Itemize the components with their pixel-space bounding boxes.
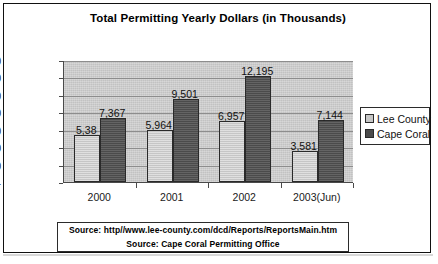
y-axis-tick-label: - xyxy=(0,178,1,188)
chart-title: Total Permitting Yearly Dollars (in Thou… xyxy=(4,12,432,24)
y-axis-tick-mark xyxy=(59,96,63,97)
bar-layer-cape-coral xyxy=(64,61,353,182)
x-axis-tick-label: 2001 xyxy=(136,191,208,203)
plot-area xyxy=(63,61,353,183)
legend-label-lee-county: Lee County xyxy=(377,113,431,125)
x-axis-tick-mark xyxy=(353,183,354,188)
y-axis-tick-label: 10,000 xyxy=(0,91,1,101)
frame-shadow xyxy=(3,254,433,256)
y-axis-tick-mark xyxy=(59,131,63,132)
y-axis-tick-mark xyxy=(59,113,63,114)
y-axis-tick-mark xyxy=(59,61,63,62)
legend-item-cape-coral[interactable]: Cape Coral xyxy=(365,126,426,141)
y-axis-tick-label: 2,000 xyxy=(0,161,1,171)
data-label-cape-coral-2003(Jun): 7,144 xyxy=(310,109,350,121)
y-axis-tick-label: 12,000 xyxy=(0,73,1,83)
plot-wrapper: 14,00012,00010,0008,0006,0004,0002,000- … xyxy=(63,61,353,183)
y-axis-tick-label: 8,000 xyxy=(0,108,1,118)
y-axis-tick-mark xyxy=(59,78,63,79)
bar-cape-coral-2001[interactable] xyxy=(173,99,199,182)
y-axis-tick-mark xyxy=(59,148,63,149)
legend-item-lee-county[interactable]: Lee County xyxy=(365,111,426,126)
x-axis-tick-label: 2002 xyxy=(208,191,280,203)
y-axis-tick-label: 6,000 xyxy=(0,126,1,136)
y-axis-tick-mark xyxy=(59,183,63,184)
x-axis-tick-mark xyxy=(208,183,209,188)
chart-frame: Total Permitting Yearly Dollars (in Thou… xyxy=(3,3,431,253)
legend-swatch-icon-cape-coral xyxy=(365,129,374,138)
source-line-2: Source: Cape Coral Permitting Office xyxy=(58,237,348,251)
y-axis-tick-label: 4,000 xyxy=(0,143,1,153)
data-label-cape-coral-2000: 7,367 xyxy=(92,107,132,119)
data-label-cape-coral-2002: 12,195 xyxy=(237,65,277,77)
bar-cape-coral-2002[interactable] xyxy=(245,76,271,182)
bar-cape-coral-2003(Jun)[interactable] xyxy=(318,120,344,182)
data-label-cape-coral-2001: 9,501 xyxy=(165,88,205,100)
legend-swatch-icon-lee-county xyxy=(365,114,374,123)
source-line-1: Source: http//www.lee-county.com/dcd/Rep… xyxy=(58,223,348,237)
x-axis-tick-mark xyxy=(136,183,137,188)
legend-label-cape-coral: Cape Coral xyxy=(377,128,430,140)
y-axis-tick-label: 14,000 xyxy=(0,56,1,66)
y-axis-tick-mark xyxy=(59,166,63,167)
source-note-box: Source: http//www.lee-county.com/dcd/Rep… xyxy=(57,222,349,252)
bar-cape-coral-2000[interactable] xyxy=(100,118,126,182)
x-axis-tick-label: 2003(Jun) xyxy=(281,191,353,203)
chart-legend: Lee County Cape Coral xyxy=(360,107,430,145)
x-axis-tick-label: 2000 xyxy=(63,191,135,203)
x-axis-tick-mark xyxy=(281,183,282,188)
